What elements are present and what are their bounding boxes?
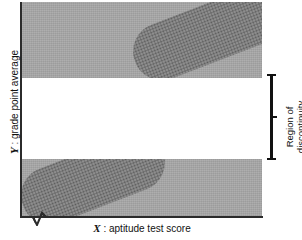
y-axis-separator: : [9, 139, 20, 147]
bracket-tick-bottom [267, 158, 276, 160]
x-axis-line [20, 216, 263, 218]
annotation-line-1: Region of [284, 75, 295, 179]
discontinuity-annotation-label: Region of discontinuity [284, 75, 302, 179]
bracket-tick-middle [272, 116, 277, 118]
y-axis-description: grade point average [9, 50, 20, 139]
x-axis-separator: : [101, 223, 109, 234]
discontinuity-band [22, 78, 262, 159]
scatter-cluster-upper [125, 2, 262, 89]
plot-area [22, 2, 262, 217]
y-axis-line [20, 2, 22, 218]
x-axis-description: aptitude test score [109, 223, 191, 234]
discontinuity-bracket [266, 74, 276, 160]
y-axis-variable: Y [8, 147, 20, 154]
x-axis-variable: X [93, 222, 100, 234]
bracket-tick-top [267, 74, 276, 76]
x-axis-label: X : aptitude test score [22, 222, 262, 234]
annotation-line-2: discontinuity [295, 75, 302, 179]
y-axis-label: Y : grade point average [8, 42, 20, 162]
figure-canvas: X : aptitude test score Y : grade point … [0, 0, 302, 240]
